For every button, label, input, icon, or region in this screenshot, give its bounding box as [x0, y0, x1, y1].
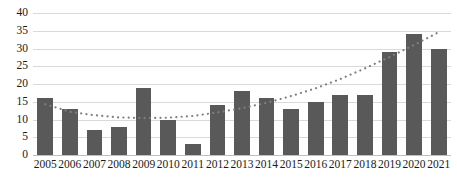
x-axis-tick-label: 2019 — [377, 158, 402, 171]
x-axis-tick-label: 2016 — [303, 158, 328, 171]
plot-area — [33, 13, 451, 155]
x-axis-tick-label: 2017 — [328, 158, 353, 171]
y-axis-tick-label: 0 — [0, 149, 28, 160]
x-axis-tick-label: 2010 — [156, 158, 181, 171]
x-axis-tick-label: 2009 — [131, 158, 156, 171]
x-axis-tick-label: 2005 — [33, 158, 58, 171]
x-axis-tick-label: 2014 — [254, 158, 279, 171]
y-axis-tick-label: 35 — [0, 25, 28, 36]
y-axis-tick-label: 25 — [0, 60, 28, 71]
gridline — [33, 155, 451, 156]
x-axis-tick-label: 2012 — [205, 158, 230, 171]
x-axis-tick-label: 2018 — [353, 158, 378, 171]
bar-chart: 4035302520151050 20052006200720082009201… — [0, 0, 457, 189]
y-axis-tick-labels: 4035302520151050 — [0, 13, 28, 155]
y-axis-tick-label: 15 — [0, 96, 28, 107]
x-axis-tick-label: 2006 — [58, 158, 83, 171]
x-axis-tick-label: 2008 — [107, 158, 132, 171]
x-axis-tick-label: 2015 — [279, 158, 304, 171]
y-axis-tick-label: 20 — [0, 78, 28, 89]
x-axis-tick-label: 2013 — [230, 158, 255, 171]
x-axis-tick-label: 2021 — [426, 158, 451, 171]
y-axis-tick-label: 10 — [0, 114, 28, 125]
y-axis-tick-label: 5 — [0, 131, 28, 142]
trendline-series — [33, 13, 451, 155]
x-axis-tick-label: 2020 — [402, 158, 427, 171]
x-axis-tick-label: 2007 — [82, 158, 107, 171]
y-axis-tick-label: 30 — [0, 43, 28, 54]
y-axis-tick-label: 40 — [0, 7, 28, 18]
x-axis-tick-label: 2011 — [181, 158, 206, 171]
x-axis-tick-labels: 2005200620072008200920102011201220132014… — [33, 158, 451, 178]
